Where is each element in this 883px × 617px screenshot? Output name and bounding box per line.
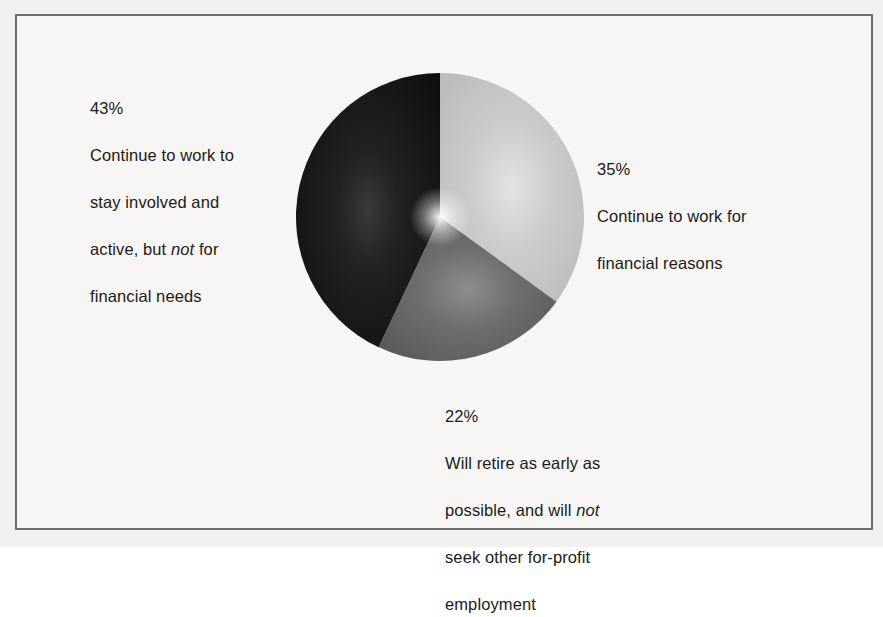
figure-frame-border: 43% Continue to work to stay involved an…	[15, 14, 873, 530]
callout-43-line-1: Continue to work to	[90, 144, 305, 168]
callout-22-line-4: employment	[445, 593, 705, 617]
callout-22-line-2: possible, and will not	[445, 499, 705, 523]
callout-35-percent-value: 35%	[597, 158, 827, 182]
callout-22-line-1: Will retire as early as	[445, 452, 705, 476]
callout-43-emphasis-not: not	[171, 240, 194, 258]
callout-22-emphasis-not: not	[576, 501, 599, 519]
callout-43-percent-value: 43%	[90, 97, 305, 121]
callout-43-line-4: financial needs	[90, 285, 305, 309]
callout-22-line-2-a: possible, and will	[445, 501, 576, 519]
callout-22-line-3: seek other for-profit	[445, 546, 705, 570]
pie-chart	[295, 72, 585, 362]
callout-43-percent: 43% Continue to work to stay involved an…	[90, 73, 305, 332]
callout-43-line-3-a: active, but	[90, 240, 171, 258]
callout-35-percent: 35% Continue to work for financial reaso…	[597, 134, 827, 299]
callout-43-line-2: stay involved and	[90, 191, 305, 215]
pie-center-highlight	[410, 187, 470, 247]
pie-chart-svg	[295, 72, 585, 362]
callout-43-line-3-b: for	[194, 240, 218, 258]
callout-35-line-2: financial reasons	[597, 252, 827, 276]
callout-22-percent: 22% Will retire as early as possible, an…	[445, 381, 705, 617]
callout-35-line-1: Continue to work for	[597, 205, 827, 229]
callout-43-line-3: active, but not for	[90, 238, 305, 262]
callout-22-percent-value: 22%	[445, 405, 705, 429]
